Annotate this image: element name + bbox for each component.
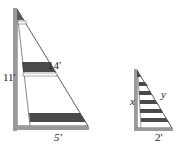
small-stripe-5 bbox=[141, 118, 169, 122]
large-top-bar bbox=[18, 21, 26, 24]
label-leg-11: 11' bbox=[3, 71, 16, 83]
large-triangle: 14' 11' 5' bbox=[3, 8, 89, 143]
label-hypotenuse-14: 14' bbox=[48, 59, 61, 71]
small-stripe-2 bbox=[139, 91, 152, 95]
label-leg-x: x bbox=[129, 95, 135, 107]
small-stripe-1 bbox=[139, 82, 148, 86]
small-triangle: x y 2' bbox=[129, 69, 173, 143]
large-base-bar bbox=[13, 126, 89, 130]
label-base-2: 2' bbox=[155, 131, 163, 143]
small-base-bar bbox=[134, 128, 173, 131]
small-stripe-4 bbox=[140, 109, 163, 113]
small-stripe-3 bbox=[140, 100, 158, 104]
large-dark-band-2 bbox=[29, 113, 86, 122]
large-light-bar-1 bbox=[23, 73, 57, 76]
label-hypotenuse-y: y bbox=[160, 88, 166, 100]
label-base-5: 5' bbox=[54, 131, 63, 143]
large-vertical-post bbox=[13, 8, 17, 131]
similar-triangles-diagram: 14' 11' 5' x y 2' bbox=[0, 0, 181, 148]
